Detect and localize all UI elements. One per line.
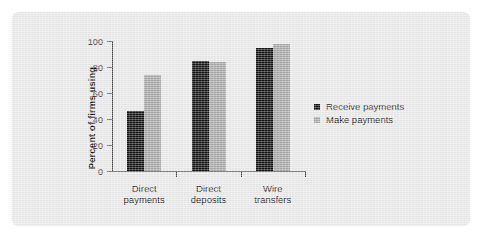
bar	[209, 62, 226, 171]
bar	[192, 61, 209, 172]
bar	[256, 48, 273, 172]
y-tick-label: 20	[93, 141, 103, 151]
legend-label: Make payments	[326, 114, 393, 125]
x-tick	[241, 171, 242, 177]
legend-item[interactable]: Make payments	[314, 113, 404, 126]
x-axis-label: Directpayments	[112, 183, 176, 205]
y-tick: 40	[107, 119, 112, 120]
x-axis-label-line: Direct	[176, 183, 240, 194]
chart-legend: Receive paymentsMake payments	[314, 100, 404, 126]
x-axis-label-line: deposits	[176, 194, 240, 205]
bar	[144, 75, 161, 171]
plot-area: 020406080100 DirectpaymentsDirectdeposit…	[112, 41, 305, 171]
legend-swatch-icon	[314, 104, 320, 110]
x-axis-label: Directdeposits	[176, 183, 240, 205]
y-tick: 80	[107, 67, 112, 68]
bar	[273, 44, 290, 171]
y-tick: 100	[107, 41, 112, 42]
y-tick: 0	[107, 171, 112, 172]
y-tick: 60	[107, 93, 112, 94]
legend-label: Receive payments	[326, 101, 404, 112]
x-axis-label-line: Wire	[241, 183, 305, 194]
chart-panel: Percent of firms using 020406080100 Dire…	[12, 12, 470, 226]
x-axis-label-line: payments	[112, 194, 176, 205]
figure: Percent of firms using 020406080100 Dire…	[0, 0, 487, 239]
x-axis-line	[112, 171, 305, 172]
x-tick	[305, 171, 306, 177]
y-tick-label: 40	[93, 115, 103, 125]
y-tick-label: 80	[93, 63, 103, 73]
legend-item[interactable]: Receive payments	[314, 100, 404, 113]
y-tick-label: 0	[98, 167, 103, 177]
x-tick	[176, 171, 177, 177]
y-tick-label: 100	[88, 37, 103, 47]
bar	[127, 111, 144, 171]
y-tick: 20	[107, 145, 112, 146]
x-axis-label-line: Direct	[112, 183, 176, 194]
x-axis-label: Wiretransfers	[241, 183, 305, 205]
y-tick-label: 60	[93, 89, 103, 99]
x-axis-label-line: transfers	[241, 194, 305, 205]
y-axis-line	[112, 41, 113, 171]
legend-swatch-icon	[314, 117, 320, 123]
